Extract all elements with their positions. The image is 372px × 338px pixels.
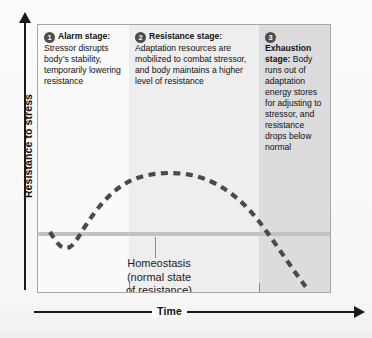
- homeostasis-label-line2: (normal state: [66, 271, 252, 285]
- stage-alarm-text: 1Alarm stage: Stressor disrupts body’s s…: [44, 31, 121, 87]
- stage-callouts: 1Alarm stage: Stressor disrupts body’s s…: [37, 24, 331, 154]
- stage-1-badge: 1: [44, 32, 55, 43]
- x-axis-arrow-icon: [354, 306, 365, 318]
- gas-diagram: Resistance to stress Homeostasis (normal…: [0, 0, 372, 338]
- stage-2-badge: 2: [135, 32, 146, 43]
- homeostasis-label-line1: Homeostasis: [66, 257, 252, 271]
- stage-alarm-body: Stressor disrupts body’s stability, temp…: [44, 43, 121, 86]
- homeostasis-label-line3: of resistance): [66, 284, 252, 293]
- stage-resistance-text: 2Resistance stage: Adaptation resources …: [135, 31, 251, 87]
- homeostasis-label: Homeostasis (normal state of resistance): [66, 257, 252, 293]
- homeostasis-leader-line: [155, 237, 156, 258]
- stage-exhaustion-text: 3Exhaustion stage: Body runs out of adap…: [265, 31, 324, 153]
- x-tick-resistance-exhaustion: [259, 283, 260, 292]
- stage-resistance: 2Resistance stage: Adaptation resources …: [128, 24, 258, 154]
- homeostasis-baseline: [38, 232, 331, 236]
- x-axis-label: Time: [152, 305, 187, 317]
- stage-exhaustion: 3Exhaustion stage: Body runs out of adap…: [258, 24, 331, 154]
- stage-alarm-title: Alarm stage:: [58, 31, 110, 41]
- x-axis-line: [34, 311, 356, 313]
- stage-alarm: 1Alarm stage: Stressor disrupts body’s s…: [37, 24, 128, 154]
- stage-3-badge: 3: [265, 32, 276, 43]
- stage-resistance-body: Adaptation resources are mobilized to co…: [135, 43, 246, 86]
- stage-exhaustion-body: Body runs out of adaptation energy store…: [265, 54, 321, 152]
- stage-resistance-title: Resistance stage:: [149, 31, 222, 41]
- y-axis-label: Resistance to stress: [22, 66, 34, 226]
